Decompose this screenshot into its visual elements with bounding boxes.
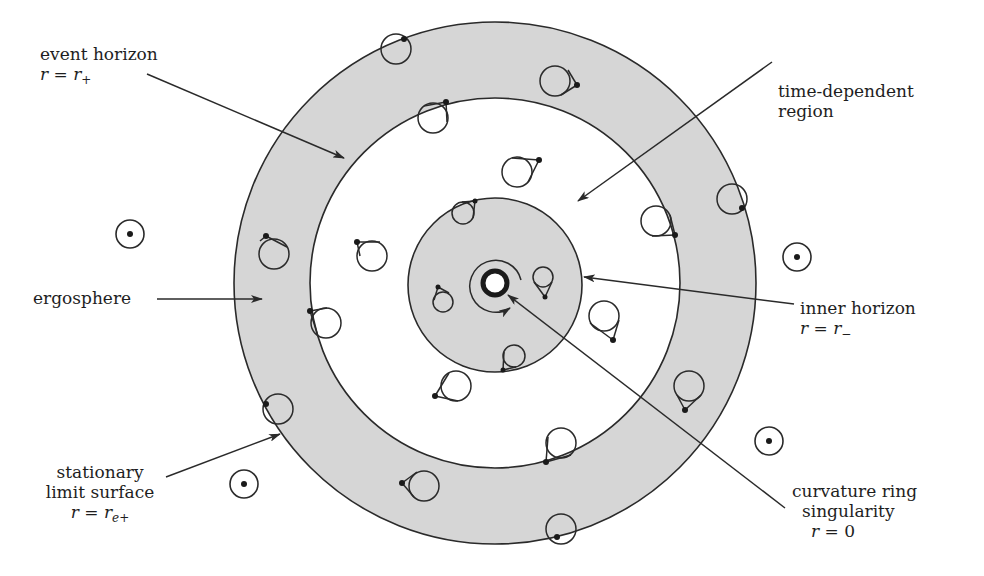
ring-singularity [483,271,507,295]
stationary-limit-arrow [166,434,280,477]
label-stationary-limit-surface: stationary limit surface r = re+ [30,462,170,524]
label-ergosphere: ergosphere [33,288,131,308]
kerr-black-hole-diagram: event horizon r = r+ time-dependent regi… [0,0,984,576]
label-time-dependent-region: time-dependent region [778,81,914,121]
label-ring-singularity: curvature ring singularity r = 0 [792,481,917,541]
label-inner-horizon: inner horizon r = r− [800,298,916,340]
label-event-horizon: event horizon r = r+ [40,44,158,86]
